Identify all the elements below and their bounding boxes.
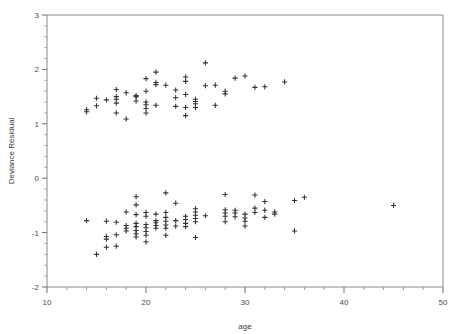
data-point xyxy=(183,113,188,118)
data-point xyxy=(173,95,178,100)
y-tick-label: 2 xyxy=(35,65,40,74)
data-point xyxy=(173,87,178,92)
data-point xyxy=(223,219,228,224)
data-point xyxy=(143,233,148,238)
data-point xyxy=(262,215,267,220)
data-point xyxy=(262,199,267,204)
data-point xyxy=(104,219,109,224)
data-point xyxy=(292,228,297,233)
scatter-plot-figure: 1020304050age-2-10123Deviance Residual xyxy=(0,0,459,334)
data-point xyxy=(213,83,218,88)
data-point xyxy=(203,83,208,88)
data-point xyxy=(134,212,139,217)
data-point xyxy=(114,87,119,92)
y-tick-label: -1 xyxy=(32,229,40,238)
data-point xyxy=(163,190,168,195)
data-point xyxy=(252,210,257,215)
data-point xyxy=(223,192,228,197)
data-point xyxy=(302,195,307,200)
data-point xyxy=(223,214,228,219)
data-point xyxy=(163,226,168,231)
data-point xyxy=(134,98,139,103)
data-point xyxy=(242,73,247,78)
y-tick-label: 1 xyxy=(35,120,40,129)
y-tick-label: 0 xyxy=(35,174,40,183)
data-point xyxy=(114,220,119,225)
data-point xyxy=(223,91,228,96)
data-point xyxy=(213,103,218,108)
data-point xyxy=(282,79,287,84)
x-tick-label: 20 xyxy=(142,298,151,307)
data-point xyxy=(173,218,178,223)
data-point xyxy=(153,212,158,217)
data-point xyxy=(391,203,396,208)
x-axis-title: age xyxy=(238,322,252,331)
data-point xyxy=(183,105,188,110)
data-point xyxy=(193,105,198,110)
data-point xyxy=(104,245,109,250)
plot-canvas: 1020304050age-2-10123Deviance Residual xyxy=(0,0,459,334)
data-point xyxy=(163,83,168,88)
data-point xyxy=(124,116,129,121)
y-tick-label: -2 xyxy=(32,283,40,292)
data-point xyxy=(124,228,129,233)
data-point xyxy=(163,210,168,215)
data-point xyxy=(114,232,119,237)
data-point xyxy=(143,76,148,81)
data-point xyxy=(104,237,109,242)
data-point xyxy=(104,97,109,102)
data-point xyxy=(114,244,119,249)
data-point xyxy=(114,110,119,115)
data-point xyxy=(262,84,267,89)
data-point xyxy=(84,218,89,223)
data-point xyxy=(143,214,148,219)
data-point xyxy=(134,194,139,199)
data-point xyxy=(193,219,198,224)
data-point xyxy=(173,104,178,109)
y-tick-label: 3 xyxy=(35,11,40,20)
x-tick-label: 30 xyxy=(241,298,250,307)
data-point xyxy=(173,223,178,228)
data-point xyxy=(242,223,247,228)
data-point xyxy=(252,85,257,90)
data-point xyxy=(153,70,158,75)
data-point xyxy=(163,233,168,238)
data-point xyxy=(173,201,178,206)
y-axis-title: Deviance Residual xyxy=(7,117,16,184)
data-point xyxy=(94,252,99,257)
data-point xyxy=(143,239,148,244)
data-point xyxy=(94,103,99,108)
x-tick-label: 40 xyxy=(340,298,349,307)
data-point xyxy=(292,198,297,203)
data-point xyxy=(124,209,129,214)
data-point xyxy=(252,192,257,197)
data-point xyxy=(114,101,119,106)
data-point xyxy=(143,110,148,115)
data-point xyxy=(193,235,198,240)
data-point xyxy=(134,202,139,207)
series-0-points xyxy=(84,60,396,257)
data-point xyxy=(203,60,208,65)
x-tick-label: 50 xyxy=(439,298,448,307)
data-point xyxy=(233,76,238,81)
x-tick-label: 10 xyxy=(43,298,52,307)
data-point xyxy=(143,89,148,94)
data-point xyxy=(203,213,208,218)
data-point xyxy=(134,234,139,239)
data-point xyxy=(242,219,247,224)
data-point xyxy=(94,96,99,101)
data-point xyxy=(233,214,238,219)
data-point xyxy=(153,103,158,108)
data-point xyxy=(124,90,129,95)
data-point xyxy=(183,224,188,229)
data-point xyxy=(262,208,267,213)
data-point xyxy=(183,79,188,84)
data-point xyxy=(183,92,188,97)
data-point xyxy=(153,226,158,231)
